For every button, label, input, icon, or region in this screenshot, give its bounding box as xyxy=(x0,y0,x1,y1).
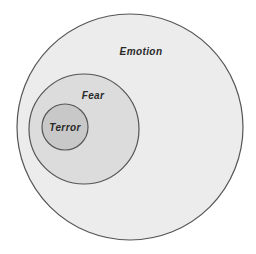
set-terror: Terror xyxy=(42,104,88,150)
nested-set-diagram: Emotion Fear Terror xyxy=(0,0,256,254)
terror-label: Terror xyxy=(49,122,81,133)
fear-label: Fear xyxy=(82,90,105,101)
emotion-label: Emotion xyxy=(120,46,163,57)
